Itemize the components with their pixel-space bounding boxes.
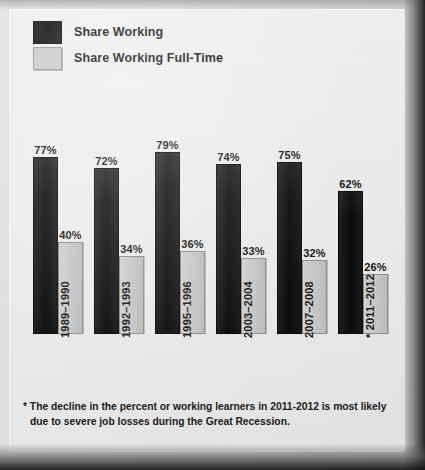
chart-footnote: * The decline in the percent or working … xyxy=(23,400,398,430)
bar-slot: 74% xyxy=(216,104,241,334)
x-axis-tick-label: 1989–1990 xyxy=(59,281,71,338)
x-axis-tick-label: 1992–1993 xyxy=(120,281,132,338)
scan-shadow-top xyxy=(0,0,425,9)
plot-area: 77% 40% 1989–1990 72% xyxy=(9,9,405,452)
scan-shadow-right xyxy=(403,0,425,470)
bar-slot: 79% xyxy=(155,104,180,334)
bar-slot: 77% xyxy=(33,104,58,334)
bar-value-label: 75% xyxy=(278,149,301,161)
bar-value-label: 36% xyxy=(181,238,204,250)
bar-value-label: 40% xyxy=(59,229,82,241)
x-axis-tick-label: 2003–2004 xyxy=(242,281,254,338)
bar-value-label: 62% xyxy=(339,178,362,190)
bar-slot: 62% xyxy=(338,104,363,334)
bar-slot: 75% xyxy=(277,104,302,334)
bar-share-working: 74% xyxy=(216,164,241,334)
bar-value-label: 79% xyxy=(156,139,179,151)
bar-value-label: 33% xyxy=(242,245,265,257)
bar-value-label: 74% xyxy=(217,151,240,163)
bar-value-label: 26% xyxy=(364,261,387,273)
bar-share-working: 77% xyxy=(33,157,58,334)
bar-value-label: 72% xyxy=(95,155,118,167)
bar-share-working: 79% xyxy=(155,152,180,334)
scan-backdrop: Share Working Share Working Full-Time 77… xyxy=(0,0,425,470)
bar-slot: 72% xyxy=(94,104,119,334)
bar-share-working: 72% xyxy=(94,168,119,334)
bar-share-working: 62% xyxy=(338,191,363,334)
chart-card: Share Working Share Working Full-Time 77… xyxy=(9,9,405,452)
bar-value-label: 77% xyxy=(34,144,57,156)
bar-value-label: 32% xyxy=(303,247,326,259)
bar-value-label: 34% xyxy=(120,243,143,255)
bar-share-working: 75% xyxy=(277,162,302,335)
x-axis-tick-label: 1995–1996 xyxy=(181,281,193,338)
x-axis-tick-label: * 2011–2012 xyxy=(364,274,376,338)
x-axis-tick-label: 2007–2008 xyxy=(303,281,315,338)
